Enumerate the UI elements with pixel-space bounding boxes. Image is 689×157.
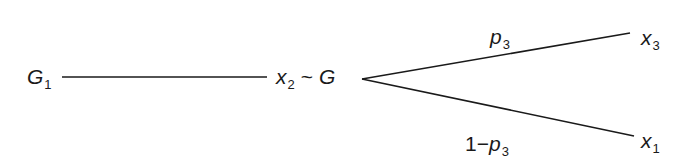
node-middle-base: x <box>276 65 287 88</box>
edge-lower-base: p <box>489 132 501 155</box>
edge-lower-label: 1−p3 <box>465 133 509 154</box>
node-lower-outcome-sub: 1 <box>653 141 660 156</box>
node-upper-outcome-label: x3 <box>641 27 660 48</box>
node-middle-sub: 2 <box>288 77 295 92</box>
edge-upper-label: p3 <box>490 26 510 47</box>
node-middle-relation: ~ <box>301 65 313 88</box>
node-upper-outcome-sub: 3 <box>653 38 660 53</box>
diagram-lines <box>0 0 689 157</box>
node-middle-label: x2~G <box>276 66 335 87</box>
edge-lower-op: − <box>477 132 489 155</box>
node-start-label: G1 <box>27 66 52 87</box>
node-upper-outcome-base: x <box>641 26 652 49</box>
node-lower-outcome-base: x <box>641 129 652 152</box>
edge-lower-branch <box>362 79 634 136</box>
node-middle-dist: G <box>319 65 335 88</box>
edge-lower-sub: 3 <box>502 144 509 157</box>
edge-upper-base: p <box>490 25 502 48</box>
edge-lower-prefix: 1 <box>465 132 477 155</box>
edge-upper-sub: 3 <box>503 37 510 52</box>
node-start-base: G <box>27 65 43 88</box>
node-start-sub: 1 <box>44 77 51 92</box>
node-lower-outcome-label: x1 <box>641 130 660 151</box>
probability-tree-diagram: G1 x2~G p3 x3 1−p3 x1 <box>0 0 689 157</box>
